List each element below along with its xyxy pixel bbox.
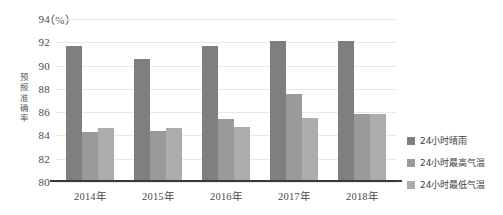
bar-group xyxy=(66,19,114,182)
y-axis-title: 预报准确率 xyxy=(18,72,31,124)
bar[interactable] xyxy=(66,46,82,182)
bar[interactable] xyxy=(370,114,386,182)
bar[interactable] xyxy=(150,131,166,182)
x-axis-category-label: 2018年 xyxy=(346,188,378,203)
bar[interactable] xyxy=(270,41,286,182)
x-axis-category-label: 2014年 xyxy=(74,188,106,203)
bar[interactable] xyxy=(286,94,302,182)
y-axis-tick-label: 88 xyxy=(38,83,50,95)
bar[interactable] xyxy=(338,41,354,182)
bar-chart: （%） 预报准确率 8082848688909294 2014年2015年201… xyxy=(0,0,503,215)
legend-label: 24小时最低气温 xyxy=(420,178,485,191)
legend-swatch-icon xyxy=(407,181,415,189)
y-axis-tick-label: 92 xyxy=(38,36,50,48)
gridline: 80 xyxy=(56,182,396,183)
y-axis-tick-label: 84 xyxy=(38,129,50,141)
y-axis-tick-label: 90 xyxy=(38,60,50,72)
x-axis-category-label: 2015年 xyxy=(142,188,174,203)
bar[interactable] xyxy=(134,59,150,182)
bar[interactable] xyxy=(98,128,114,182)
legend-item[interactable]: 24小时最低气温 xyxy=(407,178,485,191)
y-axis-tick-label: 80 xyxy=(38,176,50,188)
plot-area: 8082848688909294 xyxy=(56,19,396,182)
bar[interactable] xyxy=(218,119,234,182)
bar-groups xyxy=(56,19,396,182)
y-axis-tick-label: 94 xyxy=(38,13,50,25)
bar-group xyxy=(338,19,386,182)
chart-legend: 24小时晴雨24小时最高气温24小时最低气温 xyxy=(407,134,485,191)
legend-item[interactable]: 24小时最高气温 xyxy=(407,156,485,169)
x-axis-category-labels: 2014年2015年2016年2017年2018年 xyxy=(56,188,396,203)
legend-item[interactable]: 24小时晴雨 xyxy=(407,134,485,147)
bar[interactable] xyxy=(82,132,98,182)
bar[interactable] xyxy=(234,127,250,182)
bar[interactable] xyxy=(166,128,182,182)
legend-swatch-icon xyxy=(407,137,415,145)
bar[interactable] xyxy=(354,114,370,182)
bar-group xyxy=(134,19,182,182)
bar-group xyxy=(270,19,318,182)
y-axis-tick-label: 82 xyxy=(38,153,50,165)
legend-label: 24小时最高气温 xyxy=(420,156,485,169)
bar-group xyxy=(202,19,250,182)
y-axis-tick-label: 86 xyxy=(38,106,50,118)
bar[interactable] xyxy=(202,46,218,182)
x-axis-category-label: 2016年 xyxy=(210,188,242,203)
x-axis-line xyxy=(50,180,402,182)
legend-label: 24小时晴雨 xyxy=(420,134,467,147)
x-axis-category-label: 2017年 xyxy=(278,188,310,203)
bar[interactable] xyxy=(302,118,318,182)
legend-swatch-icon xyxy=(407,159,415,167)
